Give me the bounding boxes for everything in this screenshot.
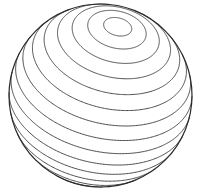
contour-ring bbox=[17, 134, 155, 181]
contour-rings bbox=[9, 4, 192, 187]
contour-ring bbox=[9, 92, 183, 165]
contour-ring bbox=[57, 4, 170, 79]
sphere-drawing bbox=[0, 0, 203, 194]
contour-ring bbox=[104, 17, 132, 36]
contour-ring bbox=[88, 10, 146, 49]
sphere-illustration bbox=[0, 0, 203, 194]
contour-ring bbox=[16, 53, 192, 140]
contour-ring bbox=[11, 72, 190, 154]
